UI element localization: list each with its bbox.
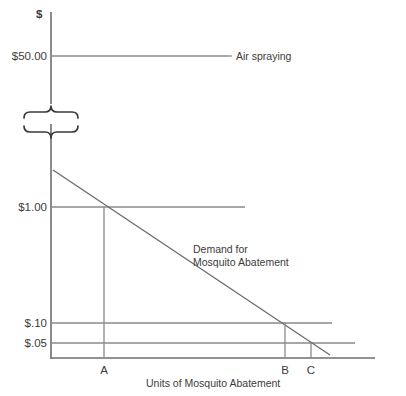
y-tick-label-50: $50.00 [0,49,47,63]
x-point-label-b: B [277,363,293,377]
y-tick-label-010: $.10 [0,316,47,330]
y-tick-label-005: $.05 [0,336,47,350]
air-spraying-label: Air spraying [236,50,291,63]
x-axis-title: Units of Mosquito Abatement [146,377,280,390]
x-point-label-c: C [303,363,319,377]
y-tick-label-1: $1.00 [0,200,47,214]
chart-plot-area [0,0,406,396]
demand-curve-label-line1: Demand for [193,243,248,256]
mosquito-abatement-demand-figure: $ $50.00 $1.00 $.10 $.05 A B C Air spray… [0,0,406,396]
y-axis-title: $ [36,7,42,21]
demand-curve-label-line2: Mosquito Abatement [193,256,289,269]
x-point-label-a: A [96,363,112,377]
